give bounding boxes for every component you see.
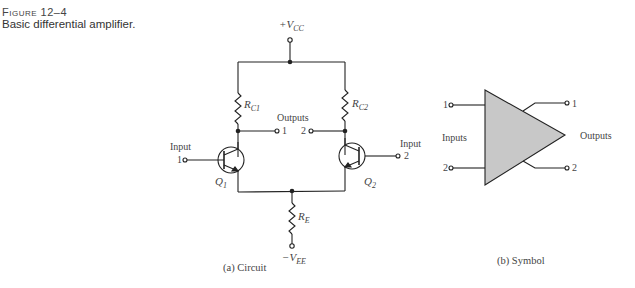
diagram-canvas: +VCC RC1 RC2 RE Q1 Q2 Outputs 1 2 Input …: [0, 0, 635, 288]
input-2-label: 2: [404, 150, 409, 161]
output-2-terminal: [309, 129, 313, 133]
vcc-label: +VCC: [279, 18, 305, 33]
symbol-input-2-label: 2: [443, 162, 448, 173]
symbol-input-2-terminal: [449, 166, 453, 170]
input-2-title: Input: [400, 138, 421, 149]
symbol-output-2-label: 2: [572, 162, 577, 173]
resistor-rc1: [235, 93, 241, 124]
input-1-title: Input: [170, 141, 191, 152]
input-1-label: 1: [177, 154, 182, 165]
junction-dots: [236, 60, 348, 194]
rc2-label: RC2: [351, 97, 368, 112]
q1-label: Q1: [215, 175, 227, 190]
vcc-terminal: [288, 38, 292, 42]
symbol-output-1-terminal: [565, 101, 569, 105]
symbol-input-1-label: 1: [443, 99, 448, 110]
resistor-re: [289, 203, 295, 234]
outputs-label: Outputs: [277, 112, 309, 123]
q2-label: Q2: [364, 175, 376, 190]
resistor-rc2: [342, 90, 348, 121]
output-1-label: 1: [282, 125, 287, 136]
symbol-inputs-label: Inputs: [442, 132, 467, 143]
input-2-terminal: [396, 154, 400, 158]
rc1-label: RC1: [243, 98, 260, 113]
output-1-terminal: [275, 129, 279, 133]
vee-label: −VEE: [282, 251, 306, 266]
symbol-caption: (b) Symbol: [497, 255, 545, 267]
symbol-output-1-label: 1: [572, 98, 577, 109]
circuit-caption: (a) Circuit: [223, 262, 267, 274]
output-2-label: 2: [301, 125, 306, 136]
input-1-terminal: [183, 158, 187, 162]
transistor-q2: [339, 138, 365, 191]
vee-terminal: [290, 244, 294, 248]
symbol-output-2-terminal: [565, 166, 569, 170]
diff-amp-symbol: 1 2 1 2 Inputs Outputs (b) Symbol: [442, 90, 612, 267]
symbol-input-1-terminal: [449, 103, 453, 107]
circuit-wiring: [183, 38, 400, 248]
re-label: RE: [297, 210, 310, 225]
symbol-outputs-label: Outputs: [580, 130, 612, 141]
